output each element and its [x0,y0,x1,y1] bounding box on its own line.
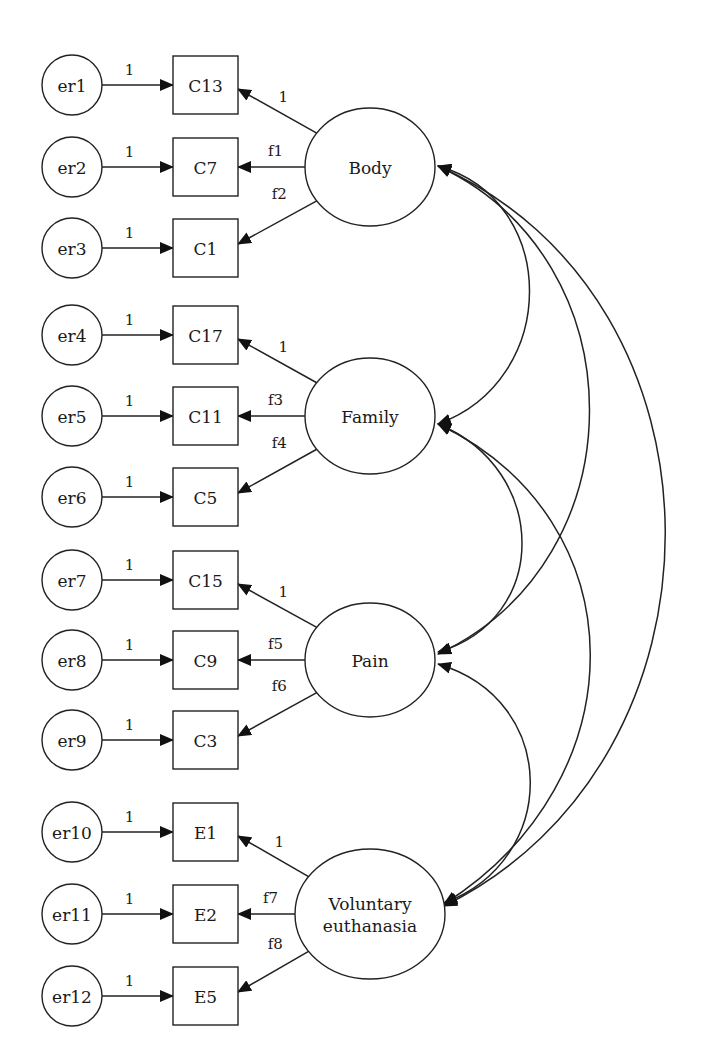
indicator-C17: C17 [173,306,238,364]
indicator-label: E2 [194,905,217,925]
error-weight-label: 1 [125,61,135,79]
covariance-arrow-family-ve [438,424,590,904]
error-term-er4: er4 [42,305,102,365]
latent-ellipse [295,849,445,979]
latent-label: Pain [351,651,388,671]
error-term-er12: er12 [42,966,102,1026]
error-term-er7: er7 [42,550,102,610]
error-label: er3 [57,239,86,259]
latent-body: Body [305,108,435,226]
indicator-label: E1 [194,823,217,843]
error-term-er11: er11 [42,884,102,944]
latent-ve: Voluntaryeuthanasia [295,849,445,979]
loading-label: f7 [263,889,278,907]
loading-label: 1 [279,88,289,106]
covariance-arrow-family-pain [438,424,522,652]
loading-label: f4 [272,434,287,452]
loading-label: 1 [279,338,289,356]
error-weight-label: 1 [125,311,135,329]
latent-pain: Pain [305,603,435,717]
indicator-C15: C15 [173,551,238,609]
error-term-er1: er1 [42,55,102,115]
indicator-label: C5 [194,488,218,508]
indicator-label: C11 [188,407,223,427]
loading-label: f1 [268,142,283,160]
error-label: er11 [52,905,92,925]
covariance-arrow-body-pain [438,166,590,654]
loading-path-family-C5 [238,449,317,493]
error-term-er2: er2 [42,137,102,197]
loading-path-ve-E5 [238,951,309,992]
covariance-arrows [438,166,665,906]
loading-path-body-C13 [238,89,317,133]
error-label: er12 [52,987,92,1007]
error-weight-label: 1 [125,224,135,242]
nodes: er1C13er2C7er3C1er4C17er5C11er6C5er7C15e… [42,55,445,1026]
indicator-label: C17 [188,326,223,346]
loading-label: f3 [268,391,283,409]
sem-path-diagram: 111f11f2111f31f4111f51f6111f71f8 er1C13e… [0,0,702,1053]
covariance-arrow-pain-ve [438,664,530,903]
indicator-C3: C3 [173,711,238,769]
indicator-C13: C13 [173,56,238,114]
indicator-C1: C1 [173,219,238,277]
latent-family: Family [305,358,435,474]
error-label: er2 [57,158,86,178]
latent-label: euthanasia [323,916,417,936]
indicator-label: C3 [194,731,218,751]
loading-label: f8 [268,935,283,953]
error-term-er5: er5 [42,386,102,446]
indicator-C9: C9 [173,631,238,689]
error-label: er10 [52,823,92,843]
loading-path-body-C1 [238,201,317,244]
indicator-C5: C5 [173,468,238,526]
loading-label: 1 [279,583,289,601]
indicator-label: C15 [188,571,223,591]
error-label: er4 [57,326,86,346]
loading-path-pain-C3 [238,693,317,736]
error-weight-label: 1 [125,473,135,491]
indicator-C7: C7 [173,138,238,196]
loading-path-pain-C15 [238,584,317,627]
indicator-label: C9 [194,651,218,671]
latent-label: Family [341,407,399,427]
error-label: er6 [57,488,86,508]
error-weight-label: 1 [125,143,135,161]
error-label: er5 [57,407,86,427]
latent-label: Voluntary [328,894,412,914]
loading-label: 1 [275,833,285,851]
error-label: er7 [57,571,86,591]
loading-path-family-C17 [238,339,317,383]
error-term-er3: er3 [42,218,102,278]
error-label: er8 [57,651,86,671]
loading-label: f5 [268,635,283,653]
error-weight-label: 1 [125,972,135,990]
indicator-E5: E5 [173,967,238,1025]
error-weight-label: 1 [125,556,135,574]
error-weight-label: 1 [125,890,135,908]
indicator-label: C7 [194,158,218,178]
error-term-er6: er6 [42,467,102,527]
indicator-C11: C11 [173,387,238,445]
covariance-arrow-body-family [438,166,530,424]
error-term-er10: er10 [42,802,102,862]
error-weight-label: 1 [125,636,135,654]
error-weight-label: 1 [125,808,135,826]
error-weight-label: 1 [125,716,135,734]
error-term-er8: er8 [42,630,102,690]
latent-label: Body [348,158,392,178]
error-label: er9 [57,731,86,751]
loading-path-ve-E1 [238,836,309,877]
indicator-label: C1 [194,239,218,259]
error-label: er1 [57,76,86,96]
loading-label: f2 [272,185,287,203]
error-weight-label: 1 [125,392,135,410]
indicator-label: E5 [194,987,217,1007]
indicator-E2: E2 [173,885,238,943]
loading-label: f6 [272,677,287,695]
indicator-label: C13 [188,76,223,96]
indicator-E1: E1 [173,803,238,861]
error-term-er9: er9 [42,710,102,770]
